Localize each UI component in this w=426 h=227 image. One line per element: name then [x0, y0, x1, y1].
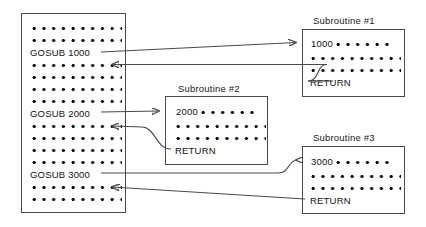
- main-code-dots: [32, 85, 122, 94]
- diagram-canvas: GOSUB 1000 GOSUB 2000 GOSUB 3000 Subrout…: [0, 0, 426, 227]
- subroutine-1-caption: Subroutine #1: [313, 15, 375, 26]
- subroutine-2-entry-label: 2000: [176, 106, 198, 117]
- gosub-2000-label: GOSUB 2000: [30, 108, 90, 119]
- arrow-gosub-1000: [101, 43, 296, 53]
- main-code-dots: [32, 97, 122, 106]
- main-code-dots: [32, 122, 122, 131]
- main-code-dots: [32, 134, 122, 143]
- subroutine-2-body-dots: [176, 122, 266, 131]
- main-code-dots: [32, 36, 122, 45]
- subroutine-1-return-label: RETURN: [310, 77, 351, 88]
- arrow-return-3000: [112, 187, 305, 199]
- main-code-dots: [32, 158, 122, 167]
- gosub-3000-label: GOSUB 3000: [30, 169, 90, 180]
- subroutine-3-return-label: RETURN: [310, 195, 351, 206]
- subroutine-3-caption: Subroutine #3: [313, 132, 375, 143]
- main-code-dots: [32, 146, 122, 155]
- gosub-1000-label: GOSUB 1000: [30, 47, 90, 58]
- subroutine-2-return-label: RETURN: [175, 145, 216, 156]
- subroutine-1-entry-dots: [336, 40, 392, 49]
- subroutine-1-body-dots: [311, 66, 401, 75]
- subroutine-3-entry-dots: [336, 158, 392, 167]
- main-code-dots: [32, 73, 122, 82]
- main-code-dots: [32, 61, 122, 70]
- arrow-return-1000-line: [112, 65, 327, 82]
- main-code-dots: [32, 24, 122, 33]
- subroutine-2-caption: Subroutine #2: [178, 83, 240, 94]
- subroutine-3-entry-label: 3000: [311, 156, 333, 167]
- subroutine-1-body-dots: [311, 54, 401, 63]
- subroutine-2-body-dots: [176, 134, 266, 143]
- main-code-dots: [32, 183, 122, 192]
- subroutine-3-body-dots: [311, 172, 401, 181]
- main-code-dots: [32, 195, 122, 204]
- subroutine-3-body-dots: [311, 184, 401, 193]
- subroutine-1-entry-label: 1000: [311, 38, 333, 49]
- subroutine-2-entry-dots: [201, 108, 257, 117]
